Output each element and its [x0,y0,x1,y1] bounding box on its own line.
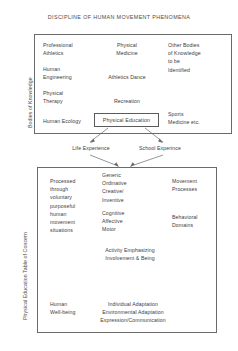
top-middle-item-2: Athletics Dance [97,73,157,81]
bottom-middle-item-4: Individual Adaptation Environmental Adap… [74,300,192,325]
top-middle-item-1: Physical Medicine [98,41,156,57]
axis-label-bodies-of-knowledge: Bodies of Knowledge [27,77,33,128]
top-right-item-1: Other Bodies of Knowledge to be Identifi… [168,41,230,74]
top-left-item-1: Professional Athletics [43,41,101,57]
bottom-right-item-2: Behavioral Domains [172,213,228,229]
axis-label-physical-education-table-of-concern: Physical Education Table of Concern [22,232,28,320]
top-left-item-2: Human Engineering [43,65,101,81]
bottom-middle-item-3: Activity Emphasizing Involvement & Being [78,246,182,262]
bottom-middle-item-1: Generic Ordinative Creative/ Inventive [102,171,164,204]
diagram-title: DISCIPLINE OF HUMAN MOVEMENT PHENOMENA [0,14,238,20]
diagram-canvas: DISCIPLINE OF HUMAN MOVEMENT PHENOMENA B… [0,0,238,351]
bottom-left-item-1: Processed through voluntary purposeful h… [50,177,100,234]
physical-education-label: Physical Education [103,117,150,123]
top-left-item-3: Physical Therapy [43,89,101,105]
bottom-right-item-1: Movement Processes [172,177,228,193]
top-left-item-4: Human Ecology [43,117,101,125]
bridge-label-school-experince: School Experince [129,144,191,152]
top-right-item-2: Sports Medicine etc. [168,110,230,126]
top-middle-item-3: Recreation [98,97,156,105]
physical-education-node[interactable]: Physical Education [94,113,159,127]
bridge-label-life-experience: Life Experience [60,144,122,152]
bottom-middle-item-2: Cognitive Affective Motor [102,209,164,234]
